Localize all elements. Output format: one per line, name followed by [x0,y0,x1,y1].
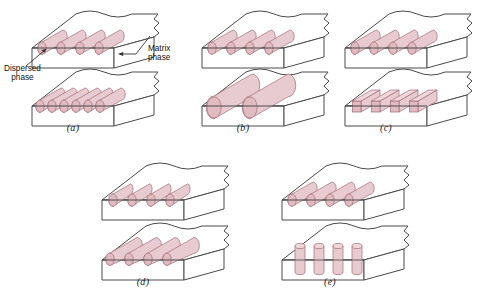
panel-e-top-block [282,163,409,220]
panel-b: (b) [188,4,338,134]
panel-c-top-block [345,11,472,68]
composite-fiber-diagram: (a) Matrix phase Dispersed phase [0,0,485,303]
dispersed-phase-label: Dispersed phase [4,64,41,83]
panel-a-bottom-block [32,69,159,126]
dispersed-phase-label-line2: phase [4,73,41,82]
panel-e-graphic [268,156,428,296]
panel-e-bottom-block [282,223,409,280]
panel-d: (d) [88,156,240,296]
panel-d-top-block [102,163,229,220]
panel-a: (a) [18,4,178,134]
panel-caption-a: (a) [53,122,93,133]
panel-a-top-block [32,11,159,68]
dispersed-phase-label-line1: Dispersed [4,64,41,73]
panel-d-bottom-block [102,223,229,280]
panel-e: (e) [268,156,428,296]
matrix-phase-label-line2: phase [148,53,170,62]
panel-c: (c) [331,4,483,134]
panel-b-bottom-block [202,69,329,126]
panel-c-graphic [331,4,483,134]
fiber-group-c-bottom [353,90,438,112]
panel-caption-d: (d) [123,276,163,287]
panel-c-bottom-block [345,69,472,126]
matrix-phase-label-line1: Matrix [148,44,170,53]
panel-a-graphic [18,4,178,134]
matrix-phase-label: Matrix phase [148,44,170,63]
panel-d-graphic [88,156,240,296]
panel-caption-e: (e) [310,276,350,287]
panel-b-graphic [188,4,338,134]
panel-caption-c: (c) [366,122,406,133]
panel-caption-b: (b) [223,122,263,133]
panel-b-top-block [202,11,329,68]
